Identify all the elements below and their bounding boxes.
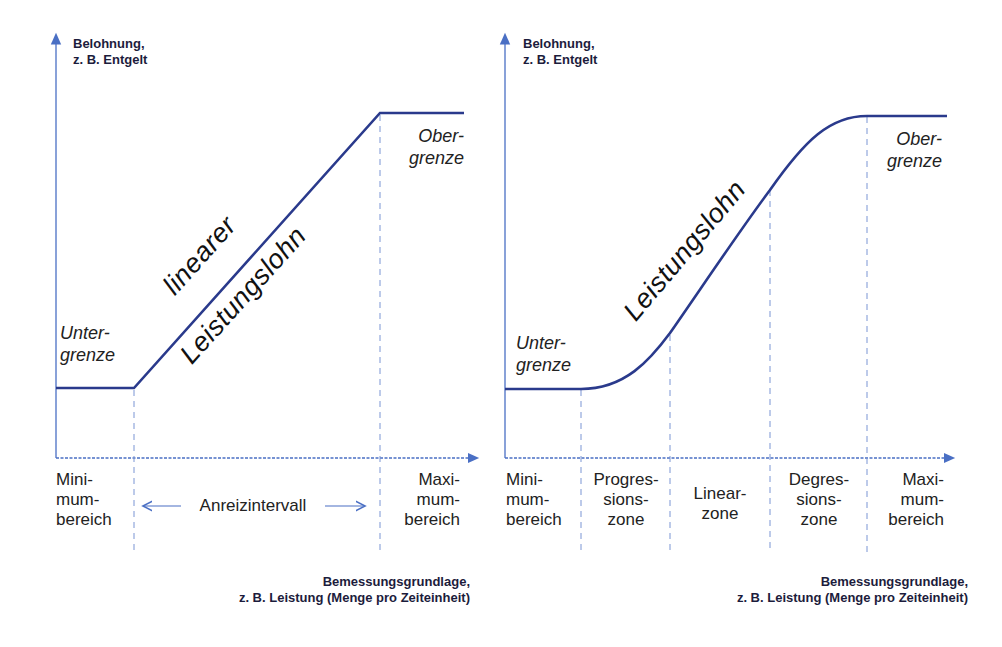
right-zone-progression: Progres- sions- zone — [582, 470, 670, 530]
right-y-axis-title: Belohnung, z. B. Entgelt — [523, 36, 597, 68]
left-y-axis-title: Belohnung, z. B. Entgelt — [73, 36, 147, 68]
right-x-axis-title-line1: Bemessungsgrundlage, — [660, 574, 968, 590]
left-zone-incentive: Anreizintervall — [183, 496, 323, 516]
left-zone-min-line3: bereich — [56, 510, 112, 530]
left-x-axis-title: Bemessungsgrundlage, z. B. Leistung (Men… — [170, 574, 470, 606]
right-lower-limit-label: Unter- grenze — [516, 332, 571, 376]
right-upper-limit-line1: Ober- — [870, 128, 942, 150]
left-upper-limit-label: Ober- grenze — [392, 125, 464, 169]
left-y-axis-title-line2: z. B. Entgelt — [73, 52, 147, 68]
right-zone-deg-line1: Degres- — [771, 470, 867, 490]
left-chart-dividers — [134, 115, 380, 552]
right-zone-linear-line1: Linear- — [671, 484, 769, 504]
right-zone-min-line3: bereich — [506, 510, 580, 530]
right-zone-min-line2: mum- — [506, 490, 580, 510]
diagram-graphics — [0, 0, 1002, 647]
right-lower-limit-line1: Unter- — [516, 332, 571, 354]
right-upper-limit-label: Ober- grenze — [870, 128, 942, 172]
left-zone-min-line1: Mini- — [56, 470, 112, 490]
left-zone-min-line2: mum- — [56, 490, 112, 510]
right-x-axis-title: Bemessungsgrundlage, z. B. Leistung (Men… — [660, 574, 968, 606]
right-x-axis-title-line2: z. B. Leistung (Menge pro Zeiteinheit) — [660, 590, 968, 606]
right-zone-max-line1: Maxi- — [868, 470, 944, 490]
right-zone-deg-line3: zone — [771, 510, 867, 530]
right-zone-linear: Linear- zone — [671, 484, 769, 524]
left-x-axis-title-line1: Bemessungsgrundlage, — [170, 574, 470, 590]
left-zone-max-line3: bereich — [384, 510, 460, 530]
left-upper-limit-line2: grenze — [392, 147, 464, 169]
right-upper-limit-line2: grenze — [870, 150, 942, 172]
left-zone-minimum: Mini- mum- bereich — [56, 470, 112, 530]
right-zone-minimum: Mini- mum- bereich — [506, 470, 580, 530]
left-upper-limit-line1: Ober- — [392, 125, 464, 147]
right-zone-prog-line1: Progres- — [582, 470, 670, 490]
right-zone-linear-line2: zone — [671, 504, 769, 524]
left-lower-limit-line2: grenze — [60, 344, 115, 366]
right-zone-min-line1: Mini- — [506, 470, 580, 490]
left-zone-max-line1: Maxi- — [384, 470, 460, 490]
left-lower-limit-label: Unter- grenze — [60, 322, 115, 366]
left-zone-max-line2: mum- — [384, 490, 460, 510]
right-zone-max-line3: bereich — [868, 510, 944, 530]
right-zone-degression: Degres- sions- zone — [771, 470, 867, 530]
left-lower-limit-line1: Unter- — [60, 322, 115, 344]
right-lower-limit-line2: grenze — [516, 354, 571, 376]
right-zone-maximum: Maxi- mum- bereich — [868, 470, 944, 530]
right-zone-max-line2: mum- — [868, 490, 944, 510]
right-zone-prog-line3: zone — [582, 510, 670, 530]
left-x-axis-title-line2: z. B. Leistung (Menge pro Zeiteinheit) — [170, 590, 470, 606]
right-zone-prog-line2: sions- — [582, 490, 670, 510]
right-y-axis-title-line1: Belohnung, — [523, 36, 597, 52]
left-y-axis-title-line1: Belohnung, — [73, 36, 147, 52]
left-zone-maximum: Maxi- mum- bereich — [384, 470, 460, 530]
right-y-axis-title-line2: z. B. Entgelt — [523, 52, 597, 68]
right-zone-deg-line2: sions- — [771, 490, 867, 510]
